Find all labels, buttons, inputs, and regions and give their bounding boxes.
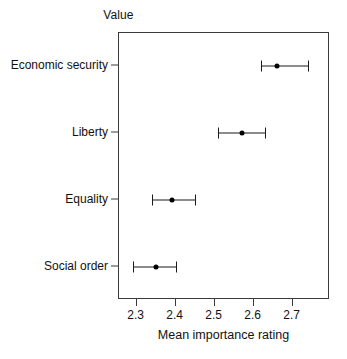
data-point-marker (239, 131, 244, 136)
error-bar-cap-low (133, 261, 134, 272)
plot-area (118, 32, 329, 299)
y-axis-tick (111, 265, 118, 266)
y-axis-label: Liberty (72, 125, 108, 139)
data-point-marker (169, 197, 174, 202)
y-axis-label: Economic security (11, 58, 108, 72)
error-bar-cap-low (152, 194, 153, 205)
error-bar-line (261, 66, 308, 67)
chart-title: Value (0, 8, 347, 22)
error-bar-cap-high (265, 128, 266, 139)
x-axis-tick (253, 299, 254, 306)
x-axis-tick-label: 2.7 (283, 308, 300, 322)
x-axis-tick (214, 299, 215, 306)
error-bar-cap-high (195, 194, 196, 205)
x-axis-tick-label: 2.6 (244, 308, 261, 322)
data-point-marker (274, 64, 279, 69)
data-point-marker (154, 264, 159, 269)
y-axis-label: Equality (65, 192, 108, 206)
error-bar-cap-low (261, 61, 262, 72)
x-axis-tick (175, 299, 176, 306)
x-axis-tick-label: 2.4 (166, 308, 183, 322)
y-axis-tick (111, 65, 118, 66)
error-bar-cap-high (308, 61, 309, 72)
y-axis-label: Social order (44, 259, 108, 273)
x-axis-tick (136, 299, 137, 306)
x-axis-title: Mean importance rating (118, 328, 329, 342)
dot-plot-figure: Value Economic securityLibertyEqualitySo… (0, 0, 347, 359)
x-axis-tick-label: 2.5 (205, 308, 222, 322)
x-axis-tick (292, 299, 293, 306)
x-axis-tick-label: 2.3 (127, 308, 144, 322)
error-bar-cap-high (176, 261, 177, 272)
y-axis-tick (111, 132, 118, 133)
y-axis-tick (111, 198, 118, 199)
error-bar-cap-low (218, 128, 219, 139)
